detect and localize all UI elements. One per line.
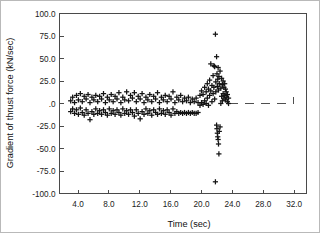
data-point-marker <box>225 92 230 97</box>
data-point-marker <box>216 141 221 146</box>
data-point-marker <box>118 100 123 105</box>
data-point-marker <box>124 89 129 94</box>
data-point-marker <box>212 96 217 101</box>
data-point-marker <box>116 90 121 95</box>
data-point-marker <box>87 117 92 122</box>
x-axis-title: Time (sec) <box>167 219 210 229</box>
data-point-marker <box>139 91 144 96</box>
data-point-marker <box>87 100 92 105</box>
data-point-marker <box>213 32 218 37</box>
x-axis-tick-labels: 4.08.012.016.020.024.028.032.0 <box>72 200 302 209</box>
annotation-layer <box>229 97 293 104</box>
x-axis-tick-marks <box>78 190 294 194</box>
data-point-marker <box>134 99 139 104</box>
y-tick-label: -100.0 <box>32 190 56 199</box>
y-tick-label: -25.0 <box>37 122 56 131</box>
data-point-marker <box>213 179 218 184</box>
data-point-marker <box>216 137 221 142</box>
x-tick-label: 32.0 <box>286 200 302 209</box>
data-point-marker <box>216 151 221 156</box>
y-tick-label: -75.0 <box>37 167 56 176</box>
x-tick-label: 4.0 <box>72 200 84 209</box>
data-point-marker <box>132 90 137 95</box>
x-tick-label: 28.0 <box>255 200 271 209</box>
y-tick-label: 25.0 <box>40 77 56 86</box>
data-point-marker <box>157 100 162 105</box>
scatter-plot: 100.075.050.025.0.0-25.0-50.0-75.0-100.0… <box>1 1 320 233</box>
x-tick-label: 8.0 <box>103 200 115 209</box>
y-tick-label: 75.0 <box>40 32 56 41</box>
data-point-marker <box>138 116 143 121</box>
data-point-marker <box>212 64 217 69</box>
data-point-marker <box>126 98 131 103</box>
data-point-marker <box>209 99 214 104</box>
x-tick-label: 16.0 <box>163 200 179 209</box>
y-tick-label: -50.0 <box>37 145 56 154</box>
data-point-marker <box>141 100 146 105</box>
data-point-marker <box>172 100 177 105</box>
y-tick-label: 100.0 <box>35 10 56 19</box>
data-point-marker <box>103 100 108 105</box>
data-point-marker <box>155 90 160 95</box>
x-tick-label: 20.0 <box>194 200 210 209</box>
x-tick-label: 24.0 <box>224 200 240 209</box>
y-tick-label: 50.0 <box>40 55 56 64</box>
y-axis-tick-labels: 100.075.050.025.0.0-25.0-50.0-75.0-100.0 <box>32 10 56 199</box>
data-point-marker <box>197 93 202 98</box>
y-tick-label: .0 <box>49 100 56 109</box>
data-point-marker <box>170 106 175 111</box>
x-tick-label: 12.0 <box>132 200 148 209</box>
data-point-marker <box>101 91 106 96</box>
figure-container: 100.075.050.025.0.0-25.0-50.0-75.0-100.0… <box>0 0 320 233</box>
data-point-marker <box>214 54 219 59</box>
data-point-marker <box>170 89 175 94</box>
y-axis-tick-marks <box>60 14 64 194</box>
y-axis-title: Gradient of thrust force (kN/sec) <box>5 38 15 169</box>
data-marker-layer <box>68 32 231 185</box>
